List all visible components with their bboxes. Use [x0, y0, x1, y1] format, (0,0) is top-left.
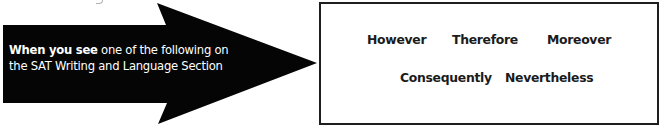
- word-however: However: [367, 32, 426, 47]
- arrow-caption-lead: When you see: [9, 43, 98, 57]
- word-nevertheless: Nevertheless: [505, 70, 593, 85]
- arrow-caption: When you see one of the following on the…: [9, 43, 179, 74]
- arrow-caption-line1: one of the following on: [98, 43, 229, 57]
- word-therefore: Therefore: [452, 32, 518, 47]
- word-moreover: Moreover: [547, 32, 611, 47]
- transition-words-box: However Therefore Moreover Consequently …: [319, 2, 659, 125]
- arrow-caption-line2: the SAT Writing and Language Section: [9, 59, 223, 73]
- word-consequently: Consequently: [400, 70, 492, 85]
